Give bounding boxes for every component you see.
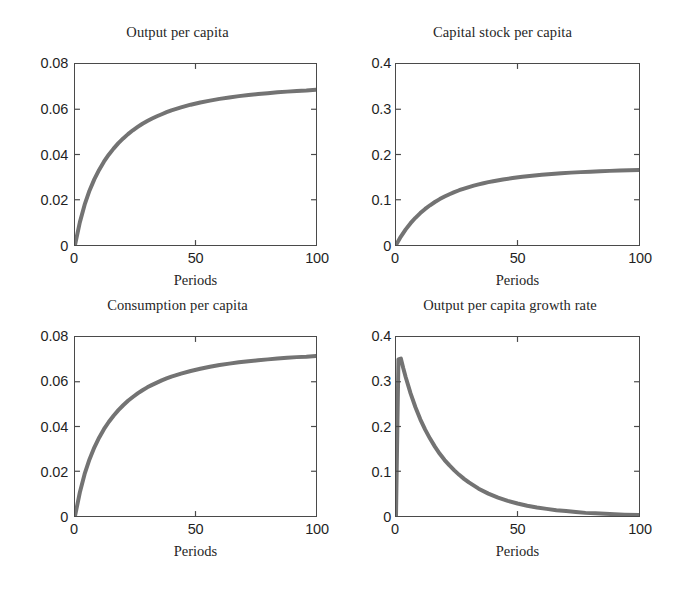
ytick-growth-1: 0.3	[349, 373, 391, 389]
ytick-consumption-4: 0	[18, 509, 68, 525]
xlabel-output-growth-rate: Periods	[496, 543, 540, 560]
xtick-output-0: 0	[70, 250, 78, 266]
panel-title-output-per-capita: Output per capita	[20, 24, 335, 41]
ytick-consumption-1: 0.06	[18, 373, 68, 389]
ytick-capital-1: 0.3	[349, 101, 391, 117]
ytick-growth-3: 0.1	[349, 464, 391, 480]
axes-output-per-capita	[74, 63, 317, 246]
axes-output-growth-rate	[395, 336, 640, 517]
ytick-output-3: 0.02	[18, 192, 68, 208]
panel-title-consumption-per-capita: Consumption per capita	[20, 297, 335, 314]
ytick-output-1: 0.06	[18, 101, 68, 117]
ytick-output-0: 0.08	[18, 55, 68, 71]
ytick-growth-0: 0.4	[349, 328, 391, 344]
xtick-output-1: 50	[188, 250, 204, 266]
ticks-consumption-per-capita	[75, 337, 316, 516]
ytick-capital-3: 0.1	[349, 192, 391, 208]
panel-consumption-per-capita: Consumption per capita 0.08 0.06	[0, 297, 345, 587]
axes-capital-stock-per-capita	[395, 63, 640, 246]
panel-title-capital-stock-per-capita: Capital stock per capita	[355, 24, 650, 41]
xtick-consumption-2: 100	[305, 521, 329, 537]
ytick-capital-4: 0	[349, 238, 391, 254]
figure-canvas: Output per capita 0.08 0.06	[0, 0, 690, 594]
ticks-capital-stock-per-capita	[396, 64, 639, 245]
ytick-consumption-3: 0.02	[18, 464, 68, 480]
axes-consumption-per-capita	[74, 336, 317, 517]
ticks-output-growth-rate	[396, 337, 639, 516]
ticks-output-per-capita	[75, 64, 316, 245]
xtick-growth-2: 100	[628, 521, 652, 537]
ytick-consumption-2: 0.04	[18, 419, 68, 435]
ytick-capital-0: 0.4	[349, 55, 391, 71]
panel-capital-stock-per-capita: Capital stock per capita 0.4 0.3	[345, 24, 690, 294]
ytick-consumption-0: 0.08	[18, 328, 68, 344]
panel-output-per-capita: Output per capita 0.08 0.06	[0, 24, 345, 294]
xtick-capital-0: 0	[391, 250, 399, 266]
xtick-capital-2: 100	[628, 250, 652, 266]
xtick-capital-1: 50	[510, 250, 526, 266]
xlabel-consumption-per-capita: Periods	[174, 543, 218, 560]
ytick-output-2: 0.04	[18, 147, 68, 163]
xtick-growth-1: 50	[510, 521, 526, 537]
ytick-output-4: 0	[18, 238, 68, 254]
ytick-growth-2: 0.2	[349, 419, 391, 435]
panel-title-output-growth-rate: Output per capita growth rate	[350, 297, 670, 314]
xtick-consumption-1: 50	[188, 521, 204, 537]
xtick-consumption-0: 0	[70, 521, 78, 537]
xlabel-capital-stock-per-capita: Periods	[496, 272, 540, 289]
ytick-capital-2: 0.2	[349, 147, 391, 163]
xtick-growth-0: 0	[391, 521, 399, 537]
ytick-growth-4: 0	[349, 509, 391, 525]
panel-output-growth-rate: Output per capita growth rate 0.4 0.3	[345, 297, 690, 587]
xtick-output-2: 100	[305, 250, 329, 266]
xlabel-output-per-capita: Periods	[174, 272, 218, 289]
